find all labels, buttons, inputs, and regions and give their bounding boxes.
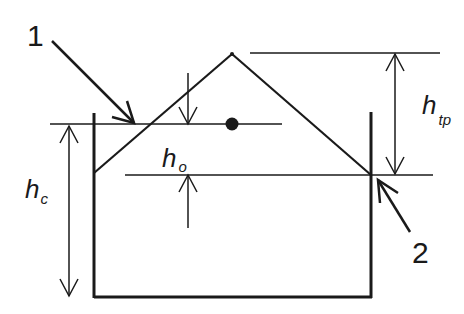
- dimension-h-tp: [386, 54, 404, 174]
- level-center-dot: [226, 118, 239, 131]
- label-h-tp: htp: [422, 90, 451, 128]
- diagram-svg: 1 2 hc ho htp: [0, 0, 464, 314]
- diagram-canvas: 1 2 hc ho htp: [0, 0, 464, 314]
- callout-1: 1: [27, 19, 134, 123]
- label-h-o: ho: [162, 143, 187, 175]
- mound-right-slope: [232, 54, 371, 175]
- callout-2-label: 2: [412, 236, 429, 269]
- callout-2-leader: [378, 180, 410, 232]
- mound: [94, 52, 371, 175]
- callout-1-label: 1: [27, 19, 44, 52]
- label-h-c: hc: [25, 174, 48, 207]
- callout-1-leader: [52, 41, 134, 123]
- dimension-h-c: [60, 126, 78, 296]
- callout-2: 2: [378, 180, 429, 269]
- apex-point: [230, 52, 234, 56]
